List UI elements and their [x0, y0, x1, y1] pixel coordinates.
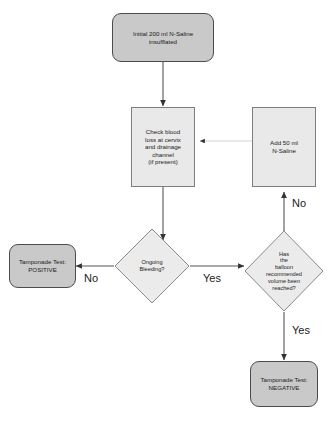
node-ongoing-bleeding-decision: Ongoing Bleeding?	[114, 228, 190, 304]
edge-label-volume-no: No	[292, 197, 306, 209]
node-ongoing-bleeding-label: Ongoing Bleeding?	[114, 259, 190, 273]
node-check-blood-loss-label: Check blood loss at cervix and drainage …	[132, 128, 194, 166]
node-tamponade-positive-label: Tamponade Test: POSITIVE	[10, 258, 75, 273]
edge-label-bleeding-no: No	[84, 272, 98, 284]
node-tamponade-negative: Tamponade Test: NEGATIVE	[250, 361, 318, 407]
edge-label-volume-yes: Yes	[292, 324, 310, 336]
edge-label-bleeding-yes: Yes	[203, 272, 221, 284]
node-tamponade-positive: Tamponade Test: POSITIVE	[9, 244, 76, 288]
node-add-saline: Add 50 ml N-Saline	[252, 107, 316, 187]
node-balloon-volume-label: Has the balloon recommended volume been …	[244, 251, 324, 292]
node-tamponade-negative-label: Tamponade Test: NEGATIVE	[251, 376, 317, 391]
node-check-blood-loss: Check blood loss at cervix and drainage …	[131, 107, 195, 187]
node-balloon-volume-decision: Has the balloon recommended volume been …	[244, 230, 324, 312]
node-initial-insufflation: Initial 200 ml N-Saline insufflated	[112, 13, 214, 62]
node-initial-insufflation-label: Initial 200 ml N-Saline insufflated	[113, 30, 213, 45]
node-add-saline-label: Add 50 ml N-Saline	[253, 139, 315, 154]
flowchart-canvas: Initial 200 ml N-Saline insufflated Chec…	[0, 0, 335, 423]
flowchart-edges	[0, 0, 335, 423]
